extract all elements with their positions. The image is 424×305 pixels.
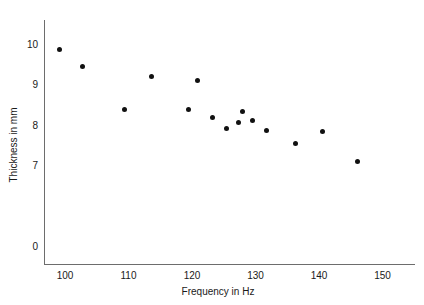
data-point: [236, 120, 241, 125]
data-point: [122, 107, 127, 112]
data-point: [250, 118, 255, 123]
data-point: [210, 115, 215, 120]
data-point: [320, 129, 325, 134]
data-point: [186, 107, 191, 112]
data-point: [264, 128, 269, 133]
data-point: [195, 78, 200, 83]
scatter-chart: 109870 100110120130140150 Thickness in m…: [0, 0, 424, 305]
data-point: [224, 126, 229, 131]
data-point: [80, 64, 85, 69]
data-point: [240, 109, 245, 114]
plot-area: [0, 0, 424, 305]
data-point: [355, 159, 360, 164]
data-point: [57, 47, 62, 52]
data-point: [293, 141, 298, 146]
data-point: [149, 74, 154, 79]
